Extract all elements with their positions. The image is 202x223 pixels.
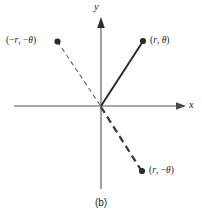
y-axis-label: y bbox=[94, 2, 99, 13]
ray-to-r-theta bbox=[101, 42, 143, 106]
figure-caption: (b) bbox=[0, 198, 202, 208]
point-label-r-neg-theta: (r, −θ) bbox=[149, 166, 174, 176]
coordinate-diagram bbox=[0, 0, 202, 223]
point-label-neg-r-neg-theta: (−r, −θ) bbox=[6, 36, 36, 46]
point-dot-r-neg-theta bbox=[139, 168, 145, 174]
x-axis-label: x bbox=[189, 100, 194, 111]
point-label-r-theta: (r, θ) bbox=[150, 36, 169, 46]
point-dot-neg-r-neg-theta bbox=[54, 38, 60, 44]
x-axis-arrowhead bbox=[176, 102, 186, 110]
point-dot-r-theta bbox=[140, 38, 146, 44]
polar-coordinates-figure: (−r, −θ) (r, θ) (r, −θ) y x (b) bbox=[0, 0, 202, 223]
y-axis-arrowhead bbox=[97, 17, 105, 28]
ray-to-r-neg-theta bbox=[101, 107, 141, 170]
ray-to-neg-r-neg-theta bbox=[59, 43, 101, 105]
